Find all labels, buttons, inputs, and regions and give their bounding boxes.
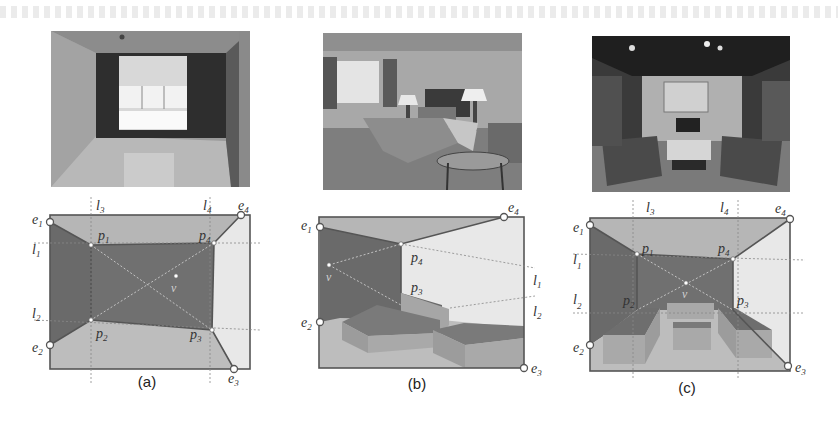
diagram-c: e1 e2 e3 e4 p1 p2 p3 p4 l1 l2 l3 l4 v	[573, 200, 806, 380]
caption-a: (a)	[127, 373, 167, 390]
point-e2	[587, 342, 594, 349]
label-e1: e1	[32, 212, 43, 229]
label-e3: e3	[531, 361, 542, 378]
label-e3: e3	[228, 371, 239, 388]
caption-c: (c)	[667, 379, 707, 396]
label-e1: e1	[301, 218, 312, 235]
point-p4	[399, 242, 403, 246]
label-l2: l2	[573, 292, 582, 311]
point-v	[174, 274, 178, 278]
point-e1	[587, 222, 594, 229]
point-p1	[89, 243, 93, 247]
layout-diagrams: .lbl { font-family:"Liberation Serif", s…	[0, 0, 838, 422]
label-e2: e2	[573, 340, 584, 357]
label-e2: e2	[32, 340, 43, 357]
label-l4: l4	[203, 198, 212, 215]
point-e1	[47, 219, 54, 226]
point-e2	[317, 319, 324, 326]
back-wall-region	[91, 243, 214, 330]
point-p4	[212, 241, 216, 245]
point-p2	[89, 318, 93, 322]
label-e4: e4	[508, 200, 519, 217]
label-e4: e4	[775, 201, 786, 218]
label-v: v	[326, 270, 332, 284]
label-l3: l3	[646, 200, 655, 217]
label-l1: l1	[32, 242, 40, 259]
label-l3: l3	[96, 198, 105, 215]
point-e4	[787, 216, 794, 223]
caption-b: (b)	[397, 375, 437, 392]
diagram-b: e1 e2 e3 e4 p4 p3 l1 l2 v	[301, 200, 542, 378]
point-e3	[785, 363, 792, 370]
point-e1	[317, 224, 324, 231]
label-l1: l1	[573, 252, 581, 271]
point-p1	[635, 252, 639, 256]
point-v	[684, 281, 688, 285]
diagram-a: e1 e2 e3 e4 p1 p2 p3 p4 l1 l2 l3 l4 v	[32, 197, 260, 388]
point-v	[327, 263, 331, 267]
label-l2: l2	[32, 306, 41, 323]
label-l2: l2	[533, 304, 542, 321]
label-v: v	[171, 281, 177, 295]
point-p4	[731, 257, 735, 261]
label-e4: e4	[238, 198, 249, 215]
point-e2	[47, 342, 54, 349]
point-e3	[521, 365, 528, 372]
label-l1: l1	[533, 273, 541, 290]
label-e1: e1	[573, 220, 584, 237]
label-e3: e3	[795, 360, 806, 377]
point-p3	[210, 328, 214, 332]
label-v: v	[682, 287, 688, 301]
label-l4: l4	[720, 200, 729, 217]
label-e2: e2	[301, 315, 312, 332]
point-e4	[501, 214, 508, 221]
